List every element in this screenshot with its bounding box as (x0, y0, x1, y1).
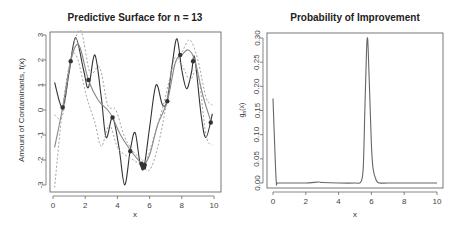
observation-point (165, 99, 169, 103)
x-tick-label: 8 (402, 197, 407, 206)
y-tick-label: 0.05 (253, 151, 262, 167)
y-tick-label: 2 (36, 57, 45, 62)
y-tick-label: 0 (36, 107, 45, 112)
x-tick-label: 10 (433, 197, 442, 206)
observation-point (128, 149, 132, 153)
left-plot-box (50, 32, 221, 192)
y-tick-label: 0.25 (253, 54, 262, 70)
left-panel: Predictive Surface for n = 13 0246810 -3… (17, 12, 221, 219)
right-series (273, 38, 437, 185)
left-y-axis: -3-2-10123 (36, 32, 47, 188)
left-x-label: x (133, 210, 137, 219)
x-tick-label: 6 (369, 197, 374, 206)
x-tick-label: 6 (147, 201, 152, 210)
observation-point (60, 105, 64, 109)
x-tick-label: 0 (51, 201, 56, 210)
observation-point (209, 120, 213, 124)
left-x-axis: 0246810 (51, 196, 219, 210)
x-tick-label: 0 (271, 197, 276, 206)
y-tick-label: -1 (36, 131, 45, 139)
right-panel: Probability of Improvement 0246810 0.000… (238, 12, 443, 219)
x-tick-label: 4 (336, 197, 341, 206)
y-tick-label: 0.10 (253, 126, 262, 142)
x-tick-label: 8 (180, 201, 185, 210)
observation-point (69, 59, 73, 63)
x-tick-label: 4 (115, 201, 120, 210)
y-tick-label: 0.20 (253, 78, 262, 94)
y-tick-label: 3 (36, 32, 45, 37)
right-x-axis: 0246810 (271, 192, 442, 206)
right-y-axis: 0.000.050.100.150.200.250.30 (253, 30, 264, 191)
left-y-label: Amount of Contaminants, f(x) (17, 58, 26, 162)
x-tick-label: 2 (83, 201, 88, 210)
y-tick-label: 0.30 (253, 30, 262, 46)
right-chart-title: Probability of Improvement (290, 12, 420, 23)
observation-point (110, 115, 114, 119)
observation-point (178, 53, 182, 57)
y-tick-label: -3 (36, 181, 45, 189)
observation-point (191, 59, 195, 63)
figure: Predictive Surface for n = 13 0246810 -3… (0, 0, 461, 227)
observation-point (143, 163, 147, 167)
pi-line (273, 38, 437, 185)
left-chart-title: Predictive Surface for n = 13 (68, 12, 203, 23)
left-series (55, 30, 213, 188)
figure-canvas: Predictive Surface for n = 13 0246810 -3… (0, 0, 461, 227)
series-line (55, 53, 213, 187)
y-tick-label: 0.00 (253, 175, 262, 191)
series-line (55, 44, 211, 165)
y-tick-label: -2 (36, 156, 45, 164)
right-x-label: x (353, 210, 357, 219)
observation-point (86, 78, 90, 82)
y-tick-label: 1 (36, 82, 45, 87)
right-y-label: gn(x) (238, 103, 247, 118)
y-tick-label: 0.15 (253, 102, 262, 118)
right-plot-box (267, 33, 443, 188)
x-tick-label: 10 (210, 201, 219, 210)
x-tick-label: 2 (304, 197, 309, 206)
series-line (55, 30, 213, 162)
